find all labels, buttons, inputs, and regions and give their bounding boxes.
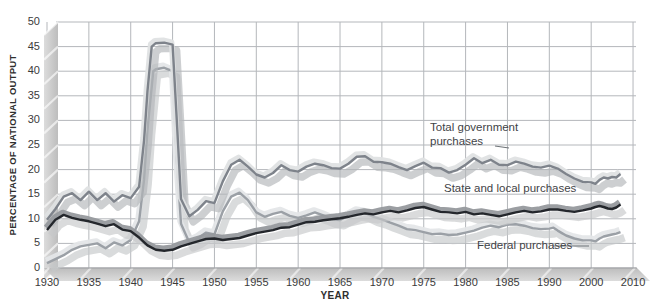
y-tick-label-0: 0 <box>10 261 40 273</box>
y-tick-label-20: 20 <box>10 163 40 175</box>
x-tick-label-2010: 2010 <box>616 276 650 288</box>
x-tick-label-1935: 1935 <box>72 276 106 288</box>
y-tick-label-40: 40 <box>10 64 40 76</box>
series-label-state-local: State and local purchases <box>444 182 576 196</box>
x-tick-label-1955: 1955 <box>239 276 273 288</box>
axis-wall-3d <box>44 22 58 281</box>
x-tick-label-1950: 1950 <box>197 276 231 288</box>
y-tick-label-50: 50 <box>10 15 40 27</box>
y-tick-label-5: 5 <box>10 236 40 248</box>
x-tick-label-1970: 1970 <box>365 276 399 288</box>
x-tick-label-2000: 2000 <box>574 276 608 288</box>
x-tick-label-1945: 1945 <box>156 276 190 288</box>
x-tick-label-1985: 1985 <box>490 276 524 288</box>
x-tick-label-1965: 1965 <box>323 276 357 288</box>
y-tick-label-30: 30 <box>10 113 40 125</box>
x-tick-label-1975: 1975 <box>407 276 441 288</box>
x-tick-label-1940: 1940 <box>114 276 148 288</box>
y-tick-label-10: 10 <box>10 212 40 224</box>
y-tick-label-25: 25 <box>10 138 40 150</box>
plot-area <box>0 0 662 307</box>
y-tick-label-35: 35 <box>10 89 40 101</box>
x-tick-label-1990: 1990 <box>532 276 566 288</box>
y-tick-label-45: 45 <box>10 40 40 52</box>
series-label-federal: Federal purchases <box>477 239 572 253</box>
x-tick-label-1980: 1980 <box>449 276 483 288</box>
x-axis-title: YEAR <box>300 290 370 301</box>
y-tick-label-15: 15 <box>10 187 40 199</box>
series-label-total-government: Total government purchases <box>430 121 548 148</box>
line-chart-figure: PERCENTAGE OF NATIONAL OUTPUT YEAR Total… <box>0 0 662 307</box>
x-tick-label-1960: 1960 <box>281 276 315 288</box>
x-tick-label-1930: 1930 <box>30 276 64 288</box>
